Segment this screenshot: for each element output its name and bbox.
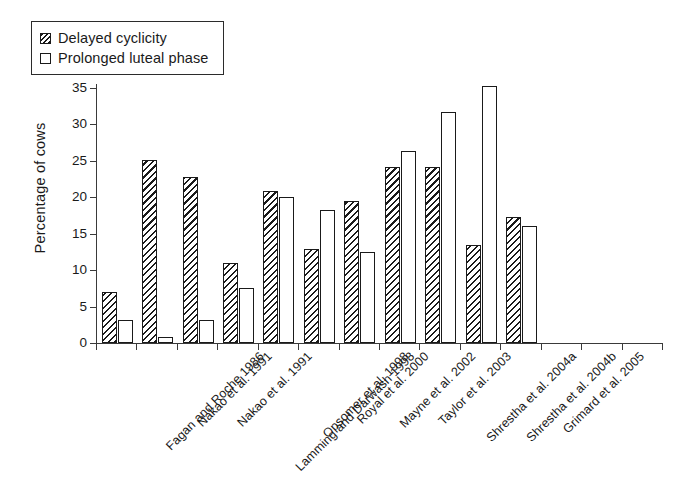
legend-item-delayed-cyclicity: Delayed cyclicity	[40, 28, 209, 48]
legend-label: Delayed cyclicity	[58, 31, 167, 46]
x-axis-label: Opsomer et al. 1998	[321, 350, 411, 440]
y-axis-tick-label: 25	[72, 154, 87, 168]
bar-group	[299, 88, 339, 343]
bar-group	[461, 88, 501, 343]
bar	[522, 226, 537, 343]
bar	[385, 167, 400, 343]
y-axis-tick-label: 35	[72, 81, 87, 95]
bar-group	[340, 88, 380, 343]
bar	[304, 249, 319, 343]
bar-group	[97, 88, 137, 343]
bar	[199, 320, 214, 343]
bar	[320, 210, 335, 343]
hatched-square-icon	[40, 33, 51, 44]
plot-area	[97, 88, 663, 343]
bar	[142, 160, 157, 343]
bar	[425, 167, 440, 343]
bar	[102, 292, 117, 343]
y-axis-tick	[90, 234, 96, 235]
bar	[401, 151, 416, 343]
x-axis-labels: Fagan and Roche 1986Nakao et al. 1991Nak…	[96, 350, 663, 500]
open-square-icon	[40, 53, 51, 64]
bar-group	[137, 88, 177, 343]
bar	[360, 252, 375, 343]
bar	[118, 320, 133, 343]
y-axis-tick	[90, 161, 96, 162]
bar-group	[218, 88, 258, 343]
bar	[466, 245, 481, 343]
legend-label: Prolonged luteal phase	[58, 51, 209, 66]
y-axis-tick	[90, 88, 96, 89]
bar	[279, 197, 294, 343]
y-axis-tick-label: 10	[72, 263, 87, 277]
bar	[239, 288, 254, 343]
bar	[344, 201, 359, 343]
bar	[441, 112, 456, 343]
chart-legend: Delayed cyclicity Prolonged luteal phase	[31, 21, 224, 75]
y-axis-tick-label: 15	[72, 227, 87, 241]
bar-group	[420, 88, 460, 343]
bar-group	[259, 88, 299, 343]
bar	[158, 337, 173, 343]
bar	[183, 177, 198, 343]
bar-group	[380, 88, 420, 343]
y-axis-tick-label: 5	[79, 300, 87, 314]
x-axis-label: Nakao et al. 1991	[195, 350, 274, 429]
y-axis-ticks: 05101520253035	[0, 88, 96, 343]
bar	[506, 217, 521, 343]
legend-item-prolonged-luteal-phase: Prolonged luteal phase	[40, 48, 209, 68]
y-axis-tick-label: 30	[72, 117, 87, 131]
y-axis-tick	[90, 124, 96, 125]
bar-group	[501, 88, 541, 343]
bar-group	[178, 88, 218, 343]
y-axis-tick	[90, 307, 96, 308]
y-axis-tick-label: 20	[72, 190, 87, 204]
bar	[482, 86, 497, 343]
y-axis-tick	[90, 197, 96, 198]
bar-chart: Delayed cyclicity Prolonged luteal phase…	[0, 0, 675, 504]
bar	[223, 263, 238, 343]
bar	[263, 191, 278, 343]
y-axis-tick-label: 0	[79, 336, 87, 350]
y-axis-tick	[90, 270, 96, 271]
